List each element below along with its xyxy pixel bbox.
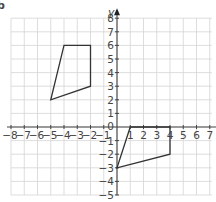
y-tick-label: 4 [107,67,114,79]
x-tick-label: 2 [140,129,147,141]
x-tick-label: 1 [127,129,134,141]
y-tick-label: −4 [99,175,115,187]
y-tick-label: −1 [99,135,114,147]
y-tick-label: −5 [99,189,114,201]
x-tick-label: 7 [206,129,213,141]
y-tick-label: 2 [107,94,114,106]
x-tick-label: 5 [180,129,187,141]
y-tick-label: −3 [99,162,114,174]
y-tick-label: 1 [107,107,114,119]
y-tick-label: 5 [107,53,114,65]
y-tick-label: 3 [107,80,114,92]
part-label: b [0,0,5,12]
tick-labels: −8−7−6−5−4−3−2−11234567−5−4−3−2−11234567… [2,12,213,201]
coordinate-grid: b −8−7−6−5−4−3−2−11234567−5−4−3−2−112345… [0,0,216,202]
x-tick-label: 6 [193,129,200,141]
y-axis-label: y [107,6,115,19]
y-tick-label: 7 [107,26,114,38]
origin-label: 0 [107,120,114,132]
x-tick-label: 4 [167,129,174,141]
y-axis-arrow-icon [114,8,120,15]
x-tick-label: 3 [153,129,160,141]
y-tick-label: −2 [99,148,114,160]
y-tick-label: 6 [107,39,114,51]
